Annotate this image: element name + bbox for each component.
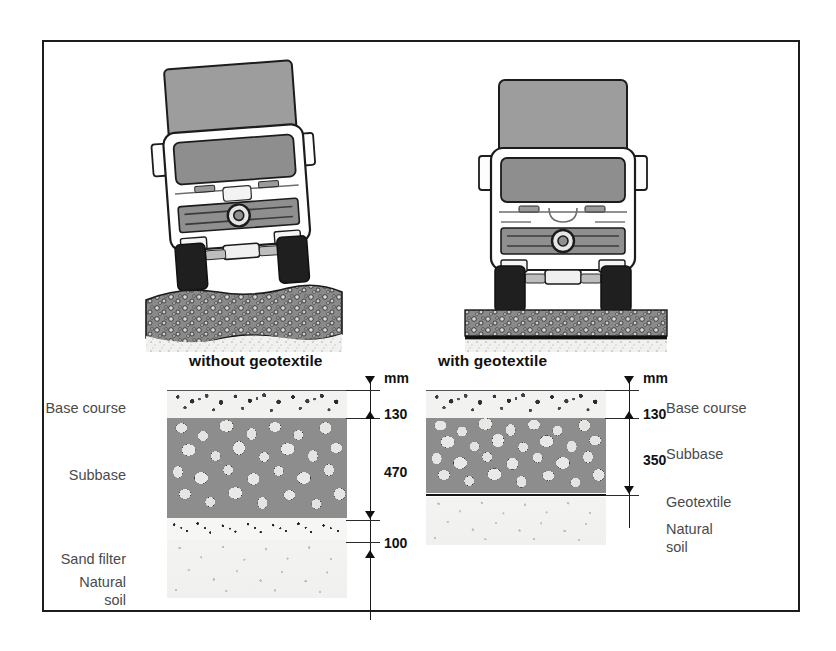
truck-illustration-sinking (140, 52, 350, 352)
dimension-value-base-course: 130 (384, 406, 407, 422)
panel-without-geotextile: without geotextile Base course Subbase S… (44, 42, 421, 610)
dimension-arrow-bottom (365, 550, 375, 558)
dimension-arrow-base-bottom (624, 411, 634, 419)
layer-subbase (167, 418, 347, 518)
truck-scene-without-geotextile (44, 50, 421, 350)
dimension-tick-surface (605, 390, 639, 391)
label-sand-filter: Sand filter (61, 551, 126, 569)
label-base-course: Base course (45, 400, 126, 418)
dimension-column-with-geotextile: mm 130 350 (621, 372, 691, 622)
level-aggregate-roadbed (465, 310, 667, 336)
dimension-arrow-base-bottom (365, 411, 375, 419)
panel-with-geotextile: with geotextile Base course Subbase Geot… (421, 42, 798, 610)
dimension-unit-label: mm (643, 370, 668, 386)
geotextile-line (465, 336, 667, 339)
rutted-aggregate-bed (146, 285, 342, 344)
label-natural-soil: Natural soil (79, 574, 126, 609)
figure-root: without geotextile Base course Subbase S… (0, 0, 836, 651)
panel-title-without-geotextile: without geotextile (189, 352, 323, 370)
dimension-tick-geotextile (605, 495, 639, 496)
dimension-arrow-subbase-bottom (624, 486, 634, 494)
dimension-value-subbase: 350 (643, 452, 666, 468)
label-subbase: Subbase (69, 467, 126, 485)
dimension-arrow-top (365, 376, 375, 384)
dimension-tick-surface (346, 390, 380, 391)
panel-title-with-geotextile: with geotextile (438, 352, 547, 370)
dimension-unit-label: mm (384, 370, 409, 386)
truck-scene-with-geotextile (421, 50, 798, 350)
layer-natural-soil (426, 497, 606, 545)
layer-base-course (167, 390, 347, 418)
dimension-arrow-top (624, 376, 634, 384)
dimension-value-sand-filter: 100 (384, 535, 407, 551)
dimension-value-subbase: 470 (384, 464, 407, 480)
dimension-value-base-course: 130 (643, 406, 666, 422)
dimension-tick-subbase-bottom (346, 520, 380, 521)
cross-section-without-geotextile (167, 390, 347, 598)
dimension-tick-sand-bottom (346, 542, 380, 543)
layer-subbase (426, 418, 606, 493)
layer-sand-filter (167, 518, 347, 540)
layer-base-course (426, 390, 606, 418)
dimension-axis (629, 376, 630, 528)
truck-illustration-level (457, 52, 677, 352)
layer-natural-soil (167, 540, 347, 598)
dimension-arrow-subbase-bottom (365, 511, 375, 519)
diagram-frame: without geotextile Base course Subbase S… (42, 40, 800, 612)
cross-section-with-geotextile (426, 390, 606, 545)
